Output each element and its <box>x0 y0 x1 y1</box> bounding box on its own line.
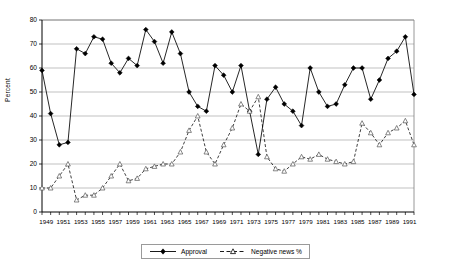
y-tick-label: 20 <box>30 160 38 167</box>
series-line-negative-news <box>42 97 414 200</box>
x-tick-label: 1957 <box>109 218 123 225</box>
data-point-negative-news <box>265 154 270 159</box>
data-point-negative-news <box>74 198 79 203</box>
chart-plot-area: 0102030405060708019491951195319551957195… <box>0 0 455 269</box>
data-point-approval <box>412 92 417 97</box>
legend-label-negative-news: Negative news % <box>251 248 302 255</box>
data-point-negative-news <box>403 118 408 123</box>
x-tick-label: 1961 <box>143 218 157 225</box>
data-point-approval <box>308 66 313 71</box>
data-point-negative-news <box>386 130 391 135</box>
data-point-approval <box>360 66 365 71</box>
x-tick-label: 1991 <box>403 218 417 225</box>
data-point-negative-news <box>368 130 373 135</box>
data-point-approval <box>83 51 88 56</box>
data-point-negative-news <box>351 159 356 164</box>
data-point-negative-news <box>204 150 209 155</box>
data-point-negative-news <box>221 142 226 147</box>
data-point-negative-news <box>299 154 304 159</box>
data-point-approval <box>334 102 339 107</box>
x-tick-label: 1953 <box>74 218 88 225</box>
data-point-approval <box>351 66 356 71</box>
data-point-negative-news <box>394 126 399 131</box>
x-tick-label: 1981 <box>316 218 330 225</box>
data-point-approval <box>377 78 382 83</box>
data-point-negative-news <box>377 142 382 147</box>
data-point-negative-news <box>412 142 417 147</box>
x-tick-label: 1971 <box>230 218 244 225</box>
data-point-approval <box>66 140 71 145</box>
x-tick-label: 1967 <box>195 218 209 225</box>
data-point-negative-news <box>178 150 183 155</box>
data-point-negative-news <box>239 102 244 107</box>
data-point-approval <box>178 51 183 56</box>
y-tick-label: 10 <box>30 184 38 191</box>
x-tick-label: 1989 <box>385 218 399 225</box>
y-tick-label: 60 <box>30 64 38 71</box>
data-point-negative-news <box>325 157 330 162</box>
x-tick-label: 1975 <box>264 218 278 225</box>
data-point-approval <box>403 34 408 39</box>
x-tick-label: 1949 <box>39 218 53 225</box>
data-point-approval <box>204 109 209 114</box>
y-tick-label: 40 <box>30 112 38 119</box>
x-tick-label: 1959 <box>126 218 140 225</box>
y-tick-label: 70 <box>30 40 38 47</box>
data-point-approval <box>57 142 62 147</box>
legend-swatch-approval-icon <box>149 247 177 256</box>
x-tick-label: 1983 <box>333 218 347 225</box>
data-point-negative-news <box>316 152 321 157</box>
legend-item-negative-news[interactable]: Negative news % <box>219 247 302 256</box>
data-point-approval <box>368 97 373 102</box>
data-point-approval <box>169 30 174 35</box>
data-point-approval <box>74 46 79 51</box>
data-point-approval <box>187 90 192 95</box>
legend-item-approval[interactable]: Approval <box>149 247 207 256</box>
x-tick-label: 1973 <box>247 218 261 225</box>
y-tick-label: 0 <box>33 208 37 215</box>
x-tick-label: 1963 <box>160 218 174 225</box>
data-point-approval <box>230 90 235 95</box>
data-point-approval <box>342 82 347 87</box>
x-tick-label: 1965 <box>178 218 192 225</box>
data-point-approval <box>161 61 166 66</box>
data-point-negative-news <box>230 126 235 131</box>
data-point-approval <box>100 37 105 42</box>
x-tick-label: 1951 <box>57 218 71 225</box>
data-point-approval <box>256 152 261 157</box>
x-tick-label: 1955 <box>91 218 105 225</box>
x-tick-label: 1979 <box>299 218 313 225</box>
data-point-approval <box>316 90 321 95</box>
chart-legend: Approval Negative news % <box>141 244 310 259</box>
x-tick-label: 1969 <box>212 218 226 225</box>
data-point-negative-news <box>187 128 192 132</box>
data-point-approval <box>239 63 244 68</box>
data-point-approval <box>40 68 45 73</box>
y-tick-label: 80 <box>30 16 38 23</box>
data-point-approval <box>299 123 304 128</box>
data-point-negative-news <box>135 176 140 181</box>
x-tick-label: 1977 <box>282 218 296 225</box>
chart-container: Percent 01020304050607080194919511953195… <box>0 0 455 269</box>
data-point-approval <box>325 104 330 109</box>
x-tick-label: 1985 <box>351 218 365 225</box>
data-point-approval <box>48 111 53 116</box>
y-tick-label: 50 <box>30 88 38 95</box>
data-point-negative-news <box>282 169 287 174</box>
legend-label-approval: Approval <box>181 248 207 255</box>
data-point-negative-news <box>360 121 365 126</box>
data-point-approval <box>92 34 97 39</box>
y-tick-label: 30 <box>30 136 38 143</box>
legend-swatch-negative-news-icon <box>219 247 247 256</box>
x-tick-label: 1987 <box>368 218 382 225</box>
data-point-negative-news <box>256 94 261 99</box>
data-point-approval <box>195 104 200 109</box>
